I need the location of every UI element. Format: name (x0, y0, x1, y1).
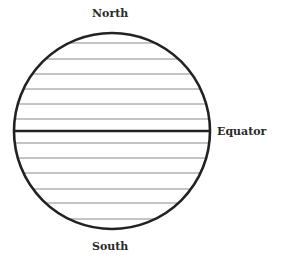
south-label: South (92, 240, 128, 253)
north-label: North (92, 7, 128, 20)
equator-label: Equator (217, 125, 266, 138)
